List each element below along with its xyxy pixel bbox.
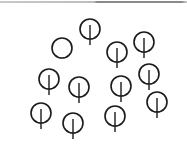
circle-stem-node [147, 92, 167, 118]
circle-stem-node [80, 19, 100, 45]
circle-stem-node [107, 42, 127, 68]
circle-stem-node [139, 64, 159, 90]
circle-stem-node [31, 103, 51, 129]
circle-stem-node [105, 106, 125, 132]
circle-stem-node [111, 76, 131, 102]
empty-circle-node [52, 38, 72, 58]
circle-stem-node [39, 69, 59, 95]
circle-stem-node [134, 32, 154, 58]
circle-icon [52, 38, 72, 58]
circle-stem-node [69, 77, 89, 103]
circle-stem-diagram [0, 0, 187, 155]
circle-stem-node [63, 113, 83, 139]
